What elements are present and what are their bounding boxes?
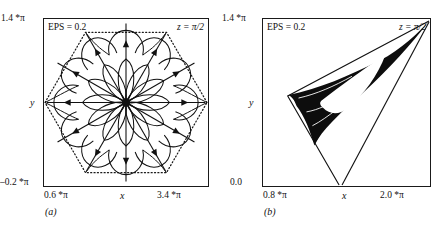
separatrix-outline-return bbox=[342, 22, 429, 185]
panel-b-x-axis-name: x bbox=[342, 191, 346, 201]
panel-b-y-axis-name: y bbox=[249, 98, 253, 108]
chaotic-band bbox=[289, 21, 429, 146]
panel-a-x-max-label: 3.4 *π bbox=[157, 191, 181, 201]
panel-a-rosette-plot bbox=[44, 19, 208, 186]
panel-a-x-min-label: 0.6 *π bbox=[44, 191, 68, 201]
panel-b-x-max-label: 2.0 *π bbox=[380, 191, 404, 201]
panel-a-y-min-label: –0.2 *π bbox=[0, 178, 29, 188]
panel-a-y-axis-name: y bbox=[30, 98, 34, 108]
center-fixed-point bbox=[122, 98, 130, 106]
panel-b-attractor-plot bbox=[263, 19, 430, 186]
panel-a: 1.4 *π –0.2 *π 0.6 *π 3.4 *π y x EPS = 0… bbox=[0, 0, 222, 229]
panel-b-y-max-label: 1.4 *π bbox=[222, 14, 246, 24]
panel-a-plot-frame: EPS = 0.2 z = π/2 bbox=[43, 18, 209, 187]
panel-a-x-axis-name: x bbox=[120, 191, 124, 201]
panel-a-y-max-label: 1.4 *π bbox=[1, 14, 25, 24]
panel-b-x-min-label: 0.8 *π bbox=[263, 191, 287, 201]
panel-a-caption: (a) bbox=[45, 207, 57, 217]
panel-b-plot-frame: EPS = 0.2 z = π/2 bbox=[262, 18, 431, 187]
panel-b: 1.4 *π 0.0 0.8 *π 2.0 *π y x EPS = 0.2 z… bbox=[222, 0, 444, 229]
panel-b-caption: (b) bbox=[264, 207, 276, 217]
figure-container: 1.4 *π –0.2 *π 0.6 *π 3.4 *π y x EPS = 0… bbox=[0, 0, 444, 229]
panel-b-y-min-label: 0.0 bbox=[230, 178, 242, 188]
